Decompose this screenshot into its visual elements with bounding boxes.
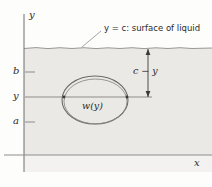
tick-label-b: b: [13, 66, 19, 76]
chord-endpoint-right-dot: [126, 96, 129, 99]
surface-of-liquid-label: y = c: surface of liquid: [104, 24, 200, 33]
liquid-region-fill: [24, 48, 212, 155]
chord-endpoint-left-dot: [63, 96, 66, 99]
below-axis-fill: [24, 155, 212, 172]
tick-label-y: y: [13, 91, 19, 101]
plate-width-label: w(y): [82, 101, 103, 111]
y-axis-label: y: [29, 10, 35, 20]
x-axis-label: x: [194, 158, 200, 168]
hydrostatic-force-figure: y x b y a y = c: surface of liquid c − y…: [0, 0, 212, 187]
tick-label-a: a: [13, 116, 19, 126]
surface-label-leader-line: [82, 31, 101, 47]
depth-dimension-label: c − y: [133, 66, 158, 76]
